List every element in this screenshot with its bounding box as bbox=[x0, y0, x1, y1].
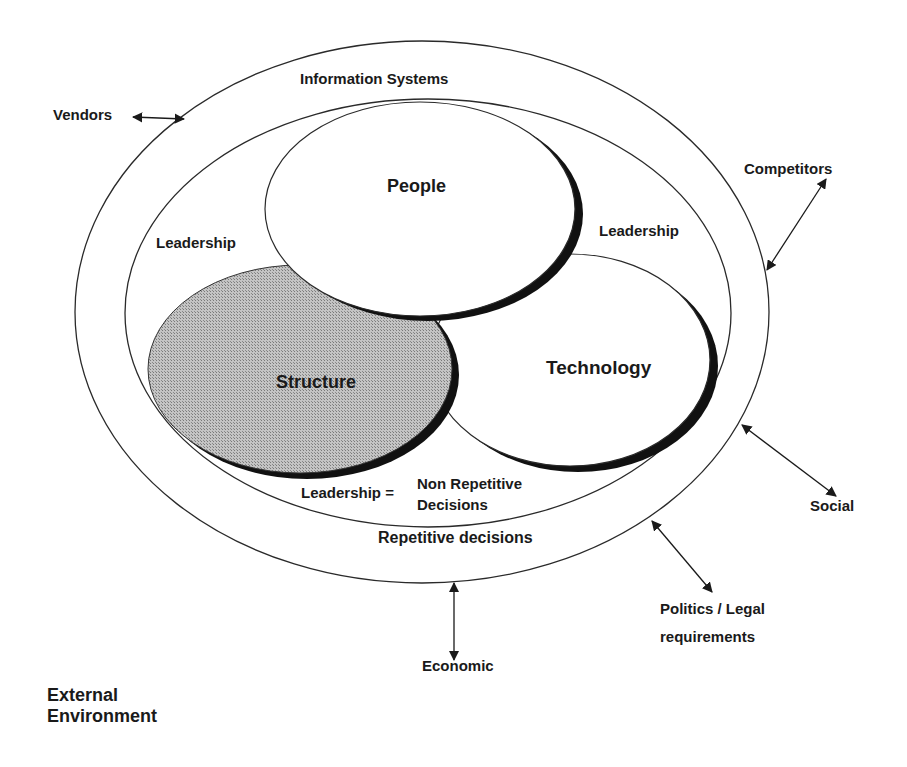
technology-label: Technology bbox=[546, 357, 651, 379]
competitors-label: Competitors bbox=[744, 160, 832, 177]
non-repetitive-decisions-line2: Decisions bbox=[417, 496, 488, 513]
repetitive-decisions-label: Repetitive decisions bbox=[378, 529, 533, 547]
politics-legal-label-line1: Politics / Legal bbox=[660, 600, 765, 617]
vendors-label: Vendors bbox=[53, 106, 112, 123]
leadership-label-left: Leadership bbox=[156, 234, 236, 251]
people-label: People bbox=[387, 176, 446, 197]
leadership-label-right: Leadership bbox=[599, 222, 679, 239]
non-repetitive-decisions-line1: Non Repetitive bbox=[417, 475, 522, 492]
people-ellipse bbox=[265, 102, 575, 316]
structure-label: Structure bbox=[276, 372, 356, 393]
social-label: Social bbox=[810, 497, 854, 514]
politics-legal-label-line2: requirements bbox=[660, 628, 755, 645]
diagram-canvas bbox=[0, 0, 907, 767]
competitors-arrow bbox=[767, 179, 826, 270]
leadership-equals-label: Leadership = bbox=[301, 484, 394, 501]
social-arrow bbox=[742, 425, 836, 496]
politics-legal-arrow bbox=[652, 521, 712, 592]
information-systems-label: Information Systems bbox=[300, 70, 448, 87]
economic-label: Economic bbox=[422, 657, 494, 674]
external-environment-label-line1: External bbox=[47, 685, 118, 706]
external-environment-label-line2: Environment bbox=[47, 706, 157, 727]
vendors-arrow bbox=[133, 117, 184, 119]
